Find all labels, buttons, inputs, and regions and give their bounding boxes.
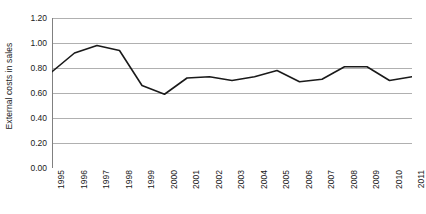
x-axis-tick-label: 2000 [169, 170, 179, 189]
y-axis-title-text: External costs in sales [4, 43, 14, 130]
series-line [52, 46, 412, 95]
x-axis-tick-label-text: 2006 [304, 170, 314, 189]
x-axis-tick-label: 1998 [124, 170, 134, 189]
y-axis-tick-label: 1.00 [30, 38, 47, 48]
y-axis-tick-label: 0.80 [30, 63, 47, 73]
x-axis-tick-label: 2002 [214, 170, 224, 189]
y-axis-tick-label: 0.00 [30, 163, 47, 173]
x-axis-tick-label-text: 2007 [326, 170, 336, 189]
x-axis-tick-label: 2007 [326, 170, 336, 189]
x-axis-tick-label: 1997 [101, 170, 111, 189]
x-axis-tick-label-text: 1998 [124, 170, 134, 189]
x-axis-tick-label-text: 2003 [236, 170, 246, 189]
y-axis-tick-label: 0.40 [30, 113, 47, 123]
y-axis-tick-label: 1.20 [30, 13, 47, 23]
x-axis-tick-labels: 1995199619971998199920002001200220032004… [52, 170, 412, 214]
x-axis-tick-label: 2011 [416, 170, 426, 188]
x-axis-tick-label: 2009 [371, 170, 381, 189]
y-axis-tick-label: 0.20 [30, 138, 47, 148]
x-axis-tick-label: 1996 [79, 170, 89, 189]
x-axis-tick-label-text: 1997 [101, 170, 111, 189]
x-axis-tick-label-text: 2009 [371, 170, 381, 189]
x-axis-tick-label: 2004 [259, 170, 269, 189]
x-axis-tick-label: 2005 [281, 170, 291, 189]
x-axis-tick-label: 2003 [236, 170, 246, 189]
x-axis-tick-label-text: 1999 [146, 170, 156, 189]
x-axis-tick-label: 2008 [349, 170, 359, 189]
x-axis-tick-label-text: 2001 [191, 170, 201, 189]
x-axis-tick-label-text: 2000 [169, 170, 179, 189]
x-axis-tick-label: 1995 [56, 170, 66, 189]
y-axis-tick-labels: 0.000.200.400.600.801.001.20 [18, 0, 50, 172]
x-axis-tick-label-text: 2008 [349, 170, 359, 189]
x-axis-tick-label-text: 2004 [259, 170, 269, 189]
y-axis-tick-label: 0.60 [30, 88, 47, 98]
x-axis-tick-label-text: 2010 [394, 170, 404, 189]
x-axis-tick-label: 2010 [394, 170, 404, 189]
x-axis-tick-label-text: 2002 [214, 170, 224, 189]
x-axis-tick-label-text: 1995 [56, 170, 66, 189]
y-axis-title: External costs in sales [0, 0, 18, 172]
x-axis-tick-label: 2006 [304, 170, 314, 189]
x-axis-tick-label: 1999 [146, 170, 156, 189]
plot-area [52, 18, 412, 168]
x-axis-tick-label-text: 2011 [416, 170, 426, 188]
x-axis-tick-label-text: 1996 [79, 170, 89, 189]
data-series [52, 46, 412, 95]
plot-svg [52, 18, 412, 168]
x-axis-tick-label-text: 2005 [281, 170, 291, 189]
x-axis-tick-label: 2001 [191, 170, 201, 189]
